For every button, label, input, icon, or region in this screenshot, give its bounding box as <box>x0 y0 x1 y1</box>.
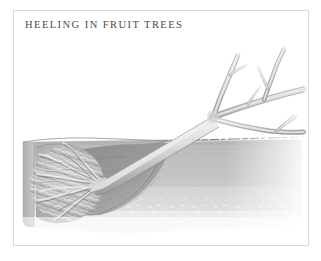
branch-main-leader <box>212 87 304 120</box>
soil-bottom-fade <box>14 217 308 245</box>
branch-lower-lateral <box>214 115 304 135</box>
tree-branches <box>207 49 304 135</box>
figure-frame: HEELING IN FRUIT TREES <box>13 10 309 246</box>
figure-caption: HEELING IN FRUIT TREES <box>25 20 183 31</box>
illustration-canvas <box>14 11 308 245</box>
heeled-in-fruit-tree-illustration <box>14 11 308 245</box>
figure-page: HEELING IN FRUIT TREES <box>0 0 321 261</box>
